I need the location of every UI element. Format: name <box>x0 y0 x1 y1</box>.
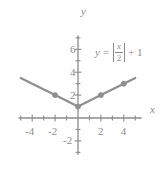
x-tick-label: -2 <box>48 126 57 137</box>
x-tick-label: 4 <box>121 126 127 137</box>
y-tick-label: 4 <box>70 67 76 78</box>
y-axis-label: y <box>81 6 86 17</box>
graph-canvas <box>0 0 163 180</box>
fraction-numerator: x <box>116 42 122 51</box>
fraction-denominator: 2 <box>116 54 123 63</box>
equation-tail: + 1 <box>128 47 142 58</box>
absolute-value-bar-left <box>113 43 114 62</box>
y-tick-label: 2 <box>70 90 76 101</box>
fraction: x 2 <box>115 42 123 63</box>
data-point <box>98 93 103 98</box>
data-point-markers <box>53 81 127 109</box>
absolute-value-bar-right <box>124 43 125 62</box>
y-tick-label: -2 <box>63 135 72 146</box>
equation-annotation: y = x 2 + 1 <box>95 42 143 63</box>
x-axis-label: x <box>150 104 155 115</box>
equation-lhs: y <box>95 47 100 58</box>
graph-figure: x y y = x 2 + 1 -4-224642-2 <box>0 0 163 180</box>
equation-equals-sign: = <box>103 47 109 58</box>
x-tick-label: -4 <box>25 126 34 137</box>
data-point <box>53 93 58 98</box>
x-tick-label: 2 <box>98 126 104 137</box>
data-point <box>121 81 126 86</box>
y-tick-label: 6 <box>70 44 76 55</box>
data-point <box>75 104 80 109</box>
